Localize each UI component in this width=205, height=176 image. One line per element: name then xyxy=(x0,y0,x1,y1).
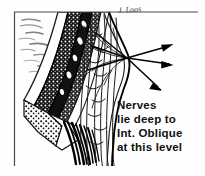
caption-line-3: Int. Oblique xyxy=(117,126,205,140)
caption-block: Nerves lie deep to Int. Oblique at this … xyxy=(117,98,205,154)
anatomical-figure: J. Loos Nerves lie deep to Int. Oblique … xyxy=(0,0,205,176)
caption-line-2: lie deep to xyxy=(117,112,205,126)
artist-signature: J. Loos xyxy=(118,4,142,15)
caption-line-4: at this level xyxy=(117,140,205,154)
caption-line-1: Nerves xyxy=(117,98,205,112)
